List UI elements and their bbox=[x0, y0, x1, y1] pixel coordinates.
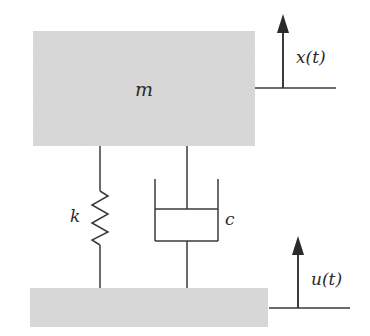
damper bbox=[155, 146, 218, 288]
mass-label: m bbox=[135, 78, 153, 100]
up-arrow-icon bbox=[277, 14, 289, 33]
mass-displacement-indicator: x(t) bbox=[255, 14, 336, 88]
spring-label: k bbox=[70, 206, 80, 226]
base-displacement-label: u(t) bbox=[311, 269, 342, 289]
spring-zigzag-icon bbox=[92, 191, 108, 245]
damper-label: c bbox=[225, 209, 235, 229]
mass-displacement-label: x(t) bbox=[296, 47, 326, 67]
spring bbox=[92, 146, 108, 288]
mass-block: m bbox=[33, 31, 255, 146]
up-arrow-icon bbox=[292, 236, 304, 255]
base-block bbox=[30, 288, 268, 327]
base-displacement-indicator: u(t) bbox=[269, 236, 350, 308]
mass-spring-damper-diagram: m x(t) k c u(t) bbox=[0, 0, 370, 336]
